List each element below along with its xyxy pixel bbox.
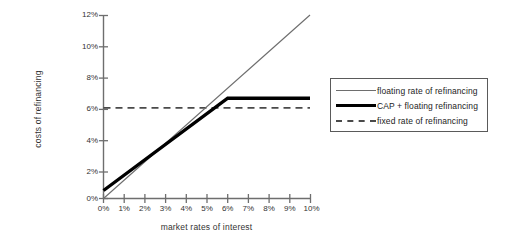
x-tick-label: 10% [297,205,327,213]
x-axis-title: market rates of interest [103,222,310,232]
legend-line-sample-thin-icon [335,85,377,97]
y-tick-label: 4% [64,137,98,145]
y-tick-label: 8% [64,74,98,82]
y-axis-title: costs of refinancing [33,29,43,189]
y-tick-label: 12% [64,11,98,19]
x-tick-label-group: 0% 1% 2% 3% 4% 5% 6% 7% 8% 9% 10% [0,205,508,219]
legend-label: CAP + floating refinancing [377,101,478,111]
legend-item-fixed-rate: fixed rate of refinancing [335,113,482,128]
chart-legend: floating rate of refinancing CAP + float… [330,78,488,132]
legend-item-cap-floating: CAP + floating refinancing [335,98,482,113]
y-tick-label: 2% [64,168,98,176]
legend-line-sample-thick-icon [335,100,377,112]
legend-label: floating rate of refinancing [377,86,478,96]
legend-line-sample-dashed-icon [335,115,377,127]
series-floating-rate-line [104,15,311,199]
y-tick-label: 10% [64,43,98,51]
legend-item-floating-rate: floating rate of refinancing [335,83,482,98]
y-tick-label: 6% [64,105,98,113]
refinancing-costs-chart: 12% 10% 8% 6% 4% 2% 0% 0% 1% 2% 3% 4% 5%… [0,0,508,242]
legend-label: fixed rate of refinancing [377,116,468,126]
y-tick-label: 0% [64,195,98,203]
series-cap-floating-line [104,98,311,190]
